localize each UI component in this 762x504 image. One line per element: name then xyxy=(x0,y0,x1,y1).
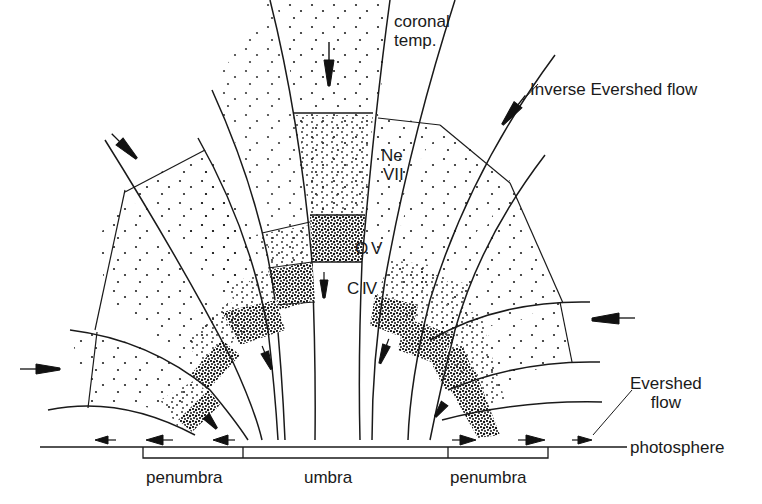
downflow-arrow-icon-far-left xyxy=(203,414,219,431)
penumbra-right-label: penumbra xyxy=(450,468,527,487)
downflow-arrow-icon-far-right xyxy=(432,401,448,419)
coronal-temp-label: coronal temp. xyxy=(394,12,450,50)
evershed-arrow-icon-left-2 xyxy=(146,435,173,445)
inflow-arrow-icon-left xyxy=(20,364,60,374)
umbra-label: umbra xyxy=(304,468,352,487)
ne-label-line1: Ne xyxy=(381,146,404,165)
evershed-arrow-icon-left-1 xyxy=(95,436,116,444)
evershed-arrow-icon-right-1 xyxy=(452,435,476,445)
photosphere-baseline xyxy=(40,447,627,458)
downflow-arrow-icon-center xyxy=(320,272,328,298)
evershed-label-line2: flow xyxy=(630,393,702,412)
inflow-arrow-icon-upper-left xyxy=(108,130,140,162)
evershed-arrow-icon-left-3 xyxy=(213,435,235,445)
coronal-label-line1: coronal xyxy=(394,12,450,31)
inverse-evershed-flow-label: Inverse Evershed flow xyxy=(530,80,697,99)
diagram-canvas: coronal temp. Ne VII O V C IV Inverse Ev… xyxy=(0,0,762,504)
c-iv-label: C IV xyxy=(347,279,376,298)
evershed-flow-label: Evershed flow xyxy=(630,374,702,412)
ne-label-line2: VII xyxy=(381,165,404,184)
o-v-label: O V xyxy=(355,239,381,258)
evershed-label-line1: Evershed xyxy=(630,374,702,393)
ne-vii-label: Ne VII xyxy=(381,146,404,184)
downflow-arrow-icon-right xyxy=(376,337,392,364)
penumbra-left-label: penumbra xyxy=(146,468,223,487)
evershed-arrow-icon-right-2 xyxy=(518,435,545,445)
inflow-arrow-icon-right xyxy=(592,313,635,324)
photosphere-label: photosphere xyxy=(630,438,725,457)
coronal-label-line2: temp. xyxy=(394,31,450,50)
evershed-arrow-icon-right-3 xyxy=(572,436,592,444)
